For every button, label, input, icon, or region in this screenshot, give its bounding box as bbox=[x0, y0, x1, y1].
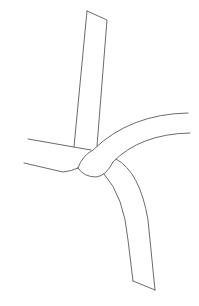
curved-band-lower bbox=[104, 159, 155, 290]
vertical-strip bbox=[74, 11, 107, 147]
horizontal-strip bbox=[24, 139, 91, 172]
strip-diagram bbox=[0, 0, 199, 306]
curved-band-upper bbox=[78, 113, 190, 168]
knot bbox=[78, 162, 113, 177]
